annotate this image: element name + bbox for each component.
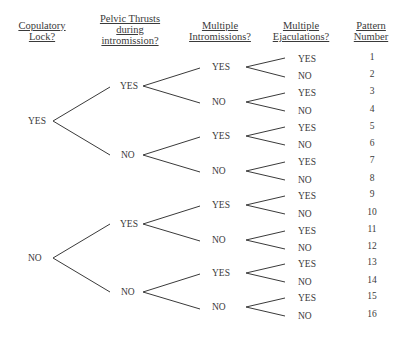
node-multiple-ejaculations: NO <box>298 71 312 81</box>
node-multiple-intromissions: YES <box>212 62 230 72</box>
node-multiple-intromissions: NO <box>212 302 226 312</box>
node-pelvic-thrusts: NO <box>121 150 135 160</box>
node-copulatory-lock-no: NO <box>28 253 42 263</box>
pattern-number: 6 <box>362 138 382 148</box>
node-multiple-intromissions: NO <box>212 235 226 245</box>
node-copulatory-lock-yes: YES <box>28 116 46 126</box>
node-pelvic-thrusts: YES <box>120 81 138 91</box>
pattern-number: 1 <box>362 52 382 62</box>
pattern-number: 15 <box>362 291 382 301</box>
node-multiple-intromissions: YES <box>212 131 230 141</box>
node-multiple-ejaculations: YES <box>298 123 316 133</box>
node-multiple-ejaculations: YES <box>298 54 316 64</box>
pattern-number: 12 <box>362 241 382 251</box>
node-multiple-ejaculations: YES <box>298 191 316 201</box>
node-pelvic-thrusts: YES <box>120 219 138 229</box>
node-multiple-intromissions: NO <box>212 166 226 176</box>
node-multiple-intromissions: YES <box>212 268 230 278</box>
node-pelvic-thrusts: NO <box>121 287 135 297</box>
node-multiple-intromissions: YES <box>212 200 230 210</box>
pattern-number: 4 <box>362 104 382 114</box>
pattern-number: 16 <box>362 309 382 319</box>
node-multiple-ejaculations: NO <box>298 311 312 321</box>
node-multiple-ejaculations: NO <box>298 209 312 219</box>
node-multiple-ejaculations: NO <box>298 175 312 185</box>
node-multiple-ejaculations: YES <box>298 293 316 303</box>
pattern-number: 14 <box>362 275 382 285</box>
pattern-number: 2 <box>362 69 382 79</box>
pattern-number: 7 <box>362 155 382 165</box>
node-multiple-ejaculations: NO <box>298 140 312 150</box>
node-multiple-intromissions: NO <box>212 97 226 107</box>
pattern-number: 11 <box>362 224 382 234</box>
node-multiple-ejaculations: NO <box>298 277 312 287</box>
node-multiple-ejaculations: YES <box>298 88 316 98</box>
pattern-number: 13 <box>362 257 382 267</box>
pattern-number: 5 <box>362 121 382 131</box>
decision-tree-lines <box>0 0 399 337</box>
pattern-number: 8 <box>362 173 382 183</box>
node-multiple-ejaculations: NO <box>298 106 312 116</box>
pattern-number: 9 <box>362 189 382 199</box>
pattern-number: 10 <box>362 207 382 217</box>
node-multiple-ejaculations: NO <box>298 243 312 253</box>
node-multiple-ejaculations: YES <box>298 259 316 269</box>
pattern-number: 3 <box>362 86 382 96</box>
node-multiple-ejaculations: YES <box>298 157 316 167</box>
node-multiple-ejaculations: YES <box>298 226 316 236</box>
